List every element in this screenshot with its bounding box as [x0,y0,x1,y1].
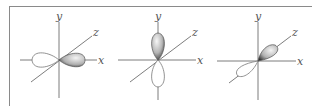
axis-label-x: x [297,55,304,68]
lobe-negative-z [236,61,258,77]
lobe-positive-x [59,53,85,67]
panel-pz: y x z [217,10,304,100]
axis-label-y: y [154,10,162,23]
lobe-positive-z [258,45,278,61]
panel-px: y x z [20,10,105,98]
axis-label-z: z [191,26,198,39]
axis-label-z: z [291,26,298,39]
lobe-negative-x [32,53,59,67]
axis-label-y: y [254,10,262,23]
panel-py: y x z [118,10,204,100]
p-orbitals-diagram: y x z y x z y x z [0,0,312,106]
axis-label-z: z [92,26,99,39]
lobe-positive-y [152,33,165,60]
axis-label-x: x [197,54,204,67]
axis-label-y: y [55,10,63,23]
axis-label-x: x [98,54,105,67]
